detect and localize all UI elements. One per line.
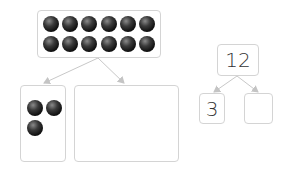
part-left-ball-box [20, 85, 66, 162]
ball-icon [139, 36, 155, 52]
number-bond-part-right[interactable] [244, 93, 273, 124]
ball-icon [62, 16, 78, 32]
ball-icon [27, 120, 43, 136]
ball-icon [101, 16, 117, 32]
ball-icon [101, 36, 117, 52]
number-bond-whole: 12 [217, 44, 259, 76]
part-left-number: 3 [206, 97, 219, 121]
ball-icon [120, 16, 136, 32]
ball-icon [46, 100, 62, 116]
ball-icon [43, 36, 59, 52]
ball-icon [27, 100, 43, 116]
ball-icon [43, 16, 59, 32]
ball-icon [120, 36, 136, 52]
ball-icon [81, 16, 97, 32]
number-bond-part-left: 3 [199, 93, 225, 124]
part-right-ball-box[interactable] [74, 85, 179, 162]
ball-icon [139, 16, 155, 32]
ball-icon [62, 36, 78, 52]
ball-icon [81, 36, 97, 52]
whole-ball-box [37, 10, 161, 58]
whole-number: 12 [225, 48, 250, 72]
